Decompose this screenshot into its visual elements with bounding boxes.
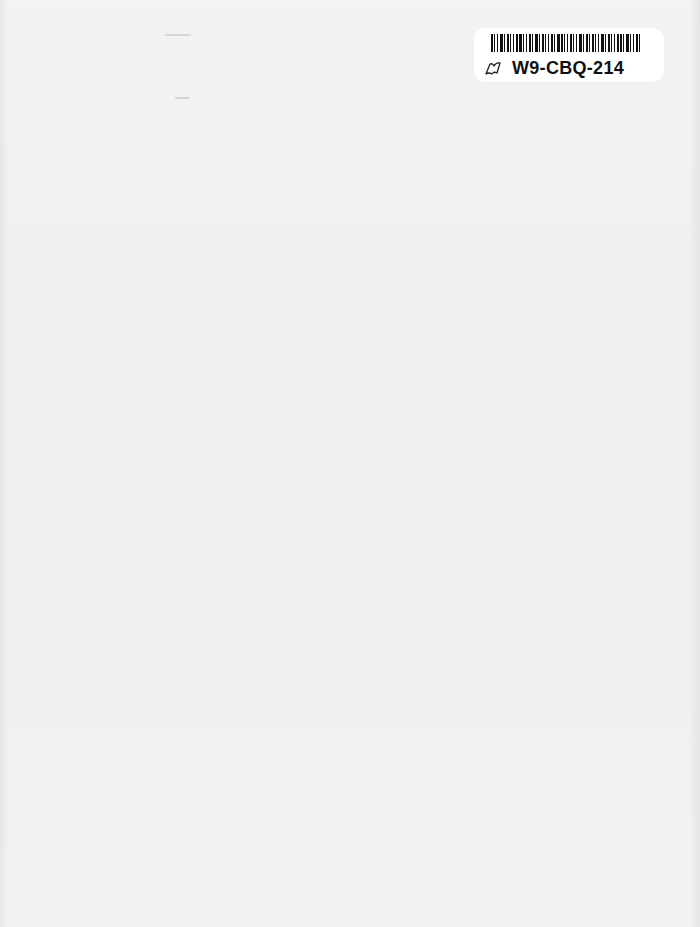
- barcode-bar: [557, 34, 560, 52]
- barcode-bar: [529, 34, 531, 52]
- barcode-bar: [507, 34, 509, 52]
- barcode-bar: [592, 34, 594, 52]
- barcode-bar: [523, 34, 524, 52]
- barcode: [491, 34, 649, 52]
- barcode-bar: [639, 34, 640, 52]
- barcode-bar: [573, 34, 574, 52]
- barcode-bar: [539, 34, 540, 52]
- barcode-bar: [551, 34, 553, 52]
- book-icon: [484, 60, 504, 78]
- barcode-bar: [564, 34, 565, 52]
- barcode-bar: [526, 34, 527, 52]
- barcode-bar: [595, 34, 596, 52]
- barcode-caption: W9-CBQ-214: [484, 58, 624, 79]
- barcode-sticker: W9-CBQ-214: [474, 28, 664, 82]
- barcode-bar: [516, 34, 518, 52]
- barcode-bar: [623, 34, 624, 52]
- barcode-bar: [626, 34, 629, 52]
- barcode-bar: [620, 34, 622, 52]
- barcode-bar: [614, 34, 615, 52]
- barcode-bar: [532, 34, 533, 52]
- barcode-bar: [636, 34, 638, 52]
- scan-artifact-mark: [165, 34, 191, 36]
- barcode-bar: [548, 34, 549, 52]
- barcode-bar: [576, 34, 577, 52]
- barcode-bar: [519, 34, 522, 52]
- barcode-bar: [608, 34, 610, 52]
- barcode-bar: [561, 34, 563, 52]
- barcode-bar: [545, 34, 546, 52]
- barcode-bar: [542, 34, 544, 52]
- barcode-bar: [567, 34, 568, 52]
- scan-artifact-mark: [175, 97, 189, 99]
- barcode-bar: [589, 34, 590, 52]
- barcode-bar: [535, 34, 538, 52]
- barcode-bar: [598, 34, 599, 52]
- barcode-bar: [633, 34, 634, 52]
- barcode-bar: [510, 34, 511, 52]
- barcode-number: W9-CBQ-214: [512, 58, 624, 79]
- barcode-bar: [579, 34, 582, 52]
- barcode-bar: [491, 34, 493, 52]
- barcode-bar: [611, 34, 612, 52]
- barcode-bar: [583, 34, 584, 52]
- barcode-bar: [586, 34, 588, 52]
- page-edge-right: [690, 0, 700, 927]
- page-edge-left: [0, 0, 8, 927]
- barcode-bar: [605, 34, 606, 52]
- barcode-bar: [497, 34, 498, 52]
- barcode-bar: [504, 34, 505, 52]
- barcode-bar: [570, 34, 572, 52]
- barcode-bar: [630, 34, 631, 52]
- barcode-bar: [513, 34, 514, 52]
- barcode-bar: [554, 34, 555, 52]
- barcode-bar: [500, 34, 503, 52]
- scanned-page: W9-CBQ-214: [0, 0, 700, 927]
- barcode-bar: [494, 34, 495, 52]
- barcode-bar: [617, 34, 619, 52]
- barcode-bar: [601, 34, 604, 52]
